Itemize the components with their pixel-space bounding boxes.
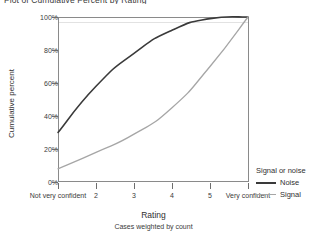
legend: Signal or noise NoiseSignal [256,166,320,199]
legend-title: Signal or noise [256,166,320,175]
series-lines [58,17,249,182]
x-tick-mark [172,183,173,189]
x-tick-mark [58,183,59,189]
chart-title: Plot of Cumulative Percent by Rating [4,0,147,4]
legend-label: Noise [280,178,299,187]
legend-entries: NoiseSignal [256,178,320,199]
x-tick-mark [210,183,211,189]
x-tick-mark [96,183,97,189]
cumulative-percent-chart: Plot of Cumulative Percent by Rating 0%2… [0,0,320,242]
legend-item-signal: Signal [256,190,320,199]
legend-swatch-signal [256,194,276,196]
legend-label: Signal [280,190,301,199]
y-axis-title: Cumulative percent [7,29,16,179]
x-tick-label: 3 [132,192,136,199]
legend-item-noise: Noise [256,178,320,187]
y-tick-mark [52,50,58,51]
x-tick-label: Not very confident [30,192,86,199]
x-tick-label: 4 [170,192,174,199]
legend-swatch-noise [256,182,276,184]
series-line-noise [58,17,248,133]
y-tick-mark [52,17,58,18]
x-tick-mark [134,183,135,189]
x-tick-label: 2 [94,192,98,199]
x-tick-mark [248,183,249,189]
x-axis-note: Cases weighted by count [58,223,249,230]
y-tick-mark [52,116,58,117]
y-tick-mark [52,149,58,150]
x-axis-title: Rating [58,210,249,220]
x-tick-label: 5 [208,192,212,199]
y-tick-mark [52,83,58,84]
